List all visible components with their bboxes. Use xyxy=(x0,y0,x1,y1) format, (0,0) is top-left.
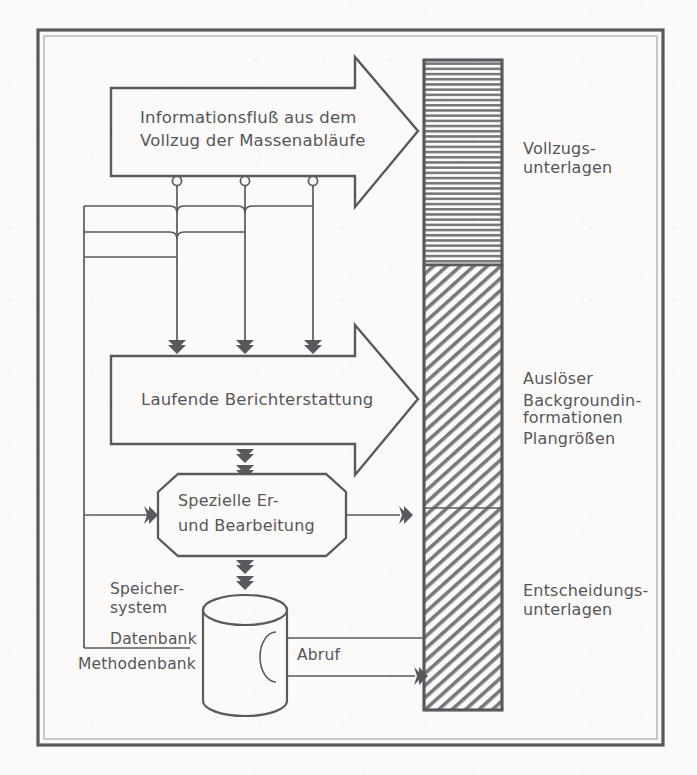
bus-node-2 xyxy=(240,176,249,185)
bar-label-ausloeser-line3: formationen xyxy=(523,409,623,428)
label-speicher-line1: Speicher- xyxy=(110,580,184,598)
bus-node-1 xyxy=(172,176,181,185)
bar-label-vollzugs-line2: unterlagen xyxy=(523,159,612,178)
bar-label-vollzugs-line1: Vollzugs- xyxy=(523,140,596,159)
bar-label-entscheidungs-line2: unterlagen xyxy=(523,601,612,620)
node-spezielle xyxy=(158,474,346,556)
label-methodenbank: Methodenbank xyxy=(78,655,196,673)
link-arrow-to-cylinder xyxy=(236,560,254,590)
arrow-top-line1: Informationsfluß aus dem xyxy=(140,108,357,127)
bar-label-entscheidungs-line1: Entscheidungs- xyxy=(523,582,649,601)
bus-rail-1 xyxy=(84,206,313,213)
label-abruf: Abruf xyxy=(297,646,340,664)
diagram-page: Informationsfluß aus dem Vollzug der Mas… xyxy=(0,0,697,775)
node-cylinder xyxy=(203,595,287,716)
bar-segment-vollzug xyxy=(424,60,502,265)
arrow-middle-line1: Laufende Berichterstattung xyxy=(141,390,374,409)
label-speicher-line2: system xyxy=(110,599,167,617)
label-datenbank: Datenbank xyxy=(110,630,197,648)
bus-arrowheads xyxy=(168,340,322,354)
node-spezielle-line2: und Bearbeitung xyxy=(178,517,315,536)
bar-segment-ausloeser xyxy=(424,265,502,710)
bar-label-ausloeser-line1: Auslöser xyxy=(523,370,593,389)
bus-node-3 xyxy=(308,176,317,185)
output-bar xyxy=(424,60,502,710)
arrow-top-line2: Vollzug der Massenabläufe xyxy=(140,131,366,150)
bus-rail-2 xyxy=(84,232,245,239)
bar-label-ausloeser-line4: Plangrößen xyxy=(523,430,615,449)
node-spezielle-line1: Spezielle Er- xyxy=(178,492,279,511)
